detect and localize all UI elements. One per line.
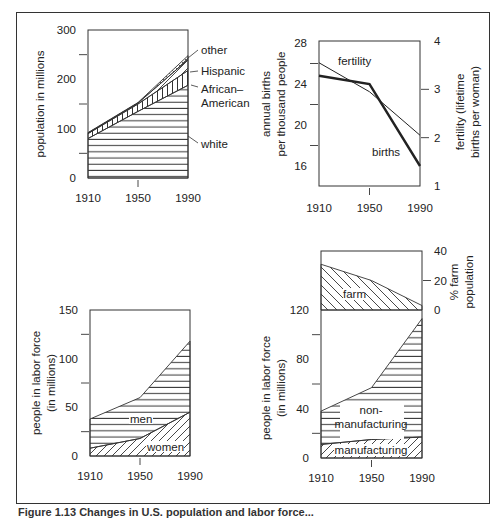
label-fertility: fertility <box>338 55 371 67</box>
y-tick-label: 40 <box>296 403 309 415</box>
label-other: other <box>201 44 227 56</box>
label-women: women <box>146 441 184 453</box>
y-axis-label-1: people in labor force <box>30 331 42 435</box>
x-tick-label: 1910 <box>77 470 103 482</box>
right-axis-label-2: births per woman) <box>469 66 481 158</box>
y-tick-label: 80 <box>296 353 309 365</box>
series-labels: other Hispanic African– American white <box>188 44 250 150</box>
x-tick-label: 1950 <box>357 202 383 214</box>
farm-inset-area <box>321 264 422 310</box>
y-right-tick-label: 2 <box>434 132 440 144</box>
line-births <box>319 76 420 166</box>
x-tick-label: 1990 <box>175 192 201 204</box>
inset-axis-label-2: population <box>463 255 475 308</box>
x-tick-label: 1990 <box>407 202 433 214</box>
y-tick-label: 100 <box>59 353 78 365</box>
label-african-american-1: African– <box>201 83 244 95</box>
right-axis-label-1: fertility (lifetime <box>454 74 466 151</box>
x-tick-label: 1950 <box>127 470 153 482</box>
line-fertility <box>319 63 420 136</box>
y-tick-label: 300 <box>57 24 76 36</box>
y-tick-label: 24 <box>294 78 307 90</box>
label-non-manufacturing-2: manufacturing <box>335 418 408 430</box>
chart-labor-force-sector: 0408012019101950199002040 people in labo… <box>260 245 475 484</box>
y-tick-label: 0 <box>72 450 78 462</box>
y-tick-label: 50 <box>65 401 78 413</box>
y-tick-label: 100 <box>57 123 76 135</box>
label-african-american-2: American <box>201 97 250 109</box>
y-tick-label: 28 <box>294 37 307 49</box>
y-right-tick-label: 3 <box>434 83 440 95</box>
y-tick-label: 200 <box>57 73 76 85</box>
chart-labor-force-sex: 050100150191019501990 people in labor fo… <box>30 304 203 482</box>
y-tick-label: 150 <box>59 304 78 316</box>
inset-tick-label: 40 <box>434 245 447 257</box>
label-births: births <box>372 146 400 158</box>
labor-sex-areas <box>90 341 190 456</box>
y-tick-label: 16 <box>294 160 307 172</box>
figure-caption: Figure 1.13 Changes in U.S. population a… <box>18 506 314 518</box>
x-tick-label: 1990 <box>409 472 435 484</box>
population-areas <box>88 56 188 178</box>
label-men: men <box>130 413 152 425</box>
area-white <box>88 85 188 178</box>
x-tick-label: 1910 <box>308 472 334 484</box>
x-tick-label: 1950 <box>125 192 151 204</box>
label-farm: farm <box>343 288 366 300</box>
y-tick-label: 0 <box>303 452 309 464</box>
inset-axis-label-1: % farm <box>448 264 460 300</box>
left-axis-label-1: annual births <box>260 71 272 137</box>
y-tick-label: 0 <box>70 172 76 184</box>
x-tick-label: 1950 <box>359 472 385 484</box>
left-axis-label-2: per thousand people <box>275 52 287 157</box>
y-tick-label: 20 <box>294 119 307 131</box>
y-axis-label-1: people in labor force <box>260 336 272 440</box>
y-tick-label: 120 <box>290 304 309 316</box>
label-hispanic: Hispanic <box>201 65 245 77</box>
y-axis-label-2: (in millions) <box>275 359 287 417</box>
x-tick-label: 1910 <box>75 192 101 204</box>
label-non-manufacturing-1: non- <box>359 404 382 416</box>
y-right-tick-label: 1 <box>434 180 440 192</box>
chart-population: 0100200300191019501990 population in mil… <box>34 24 250 204</box>
area-farm <box>321 264 422 310</box>
x-tick-label: 1990 <box>177 470 203 482</box>
births-fertility-lines <box>319 63 420 166</box>
y-right-tick-label: 4 <box>434 35 441 47</box>
y-axis-label: population in millions <box>34 50 46 157</box>
inset-tick-label: 0 <box>434 304 440 316</box>
label-manufacturing: manufacturing <box>335 444 408 456</box>
label-white: white <box>200 138 228 150</box>
y-axis-label-2: (in millions) <box>45 354 57 412</box>
chart-births-fertility: 162024281234191019501990 annual births p… <box>260 35 481 214</box>
inset-tick-label: 20 <box>434 275 447 287</box>
x-tick-label: 1910 <box>306 202 332 214</box>
